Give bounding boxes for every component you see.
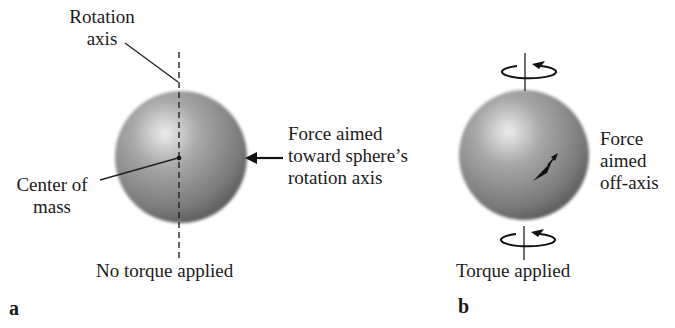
torque-applied-caption: Torque applied xyxy=(456,260,570,282)
center-of-mass-label-line1: Center of xyxy=(8,174,96,196)
rotation-axis-label: Rotation axis xyxy=(60,6,144,50)
panel-b-letter: b xyxy=(458,295,469,318)
center-of-mass-label: Center of mass xyxy=(8,174,96,218)
force-arrow-left-icon xyxy=(245,152,283,164)
rotation-axis-label-line2: axis xyxy=(60,28,144,50)
rotation-axis-label-line1: Rotation xyxy=(60,6,144,28)
force-toward-axis-label-line2: toward sphere’s xyxy=(288,145,408,167)
no-torque-caption: No torque applied xyxy=(96,260,233,282)
panel-a-letter: a xyxy=(9,297,19,320)
force-toward-axis-label-line3: rotation axis xyxy=(288,167,408,189)
force-off-axis-label-line3: off-axis xyxy=(600,172,659,194)
rotation-arrow-bottom-icon xyxy=(501,229,555,246)
force-toward-axis-label-line1: Force aimed xyxy=(288,123,408,145)
force-toward-axis-label: Force aimed toward sphere’s rotation axi… xyxy=(288,123,408,189)
sphere-b xyxy=(459,90,589,220)
rotation-arrow-top-icon xyxy=(502,61,556,78)
force-off-axis-label-line2: aimed xyxy=(600,150,659,172)
panel-a xyxy=(100,43,283,262)
force-off-axis-label: Force aimed off-axis xyxy=(600,128,659,194)
center-of-mass-label-line2: mass xyxy=(8,196,96,218)
panel-b xyxy=(459,53,589,260)
force-off-axis-label-line1: Force xyxy=(600,128,659,150)
